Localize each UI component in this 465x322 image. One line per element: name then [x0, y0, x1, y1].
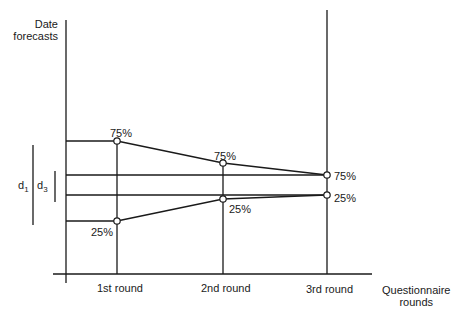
label-25-r2: 25%: [229, 203, 251, 215]
d3-sub: 3: [43, 185, 47, 194]
point-25-r1: [114, 218, 120, 224]
label-75-r3: 75%: [334, 170, 356, 182]
y-axis-label: Date forecasts: [13, 18, 58, 42]
d1-label: d1: [18, 179, 29, 196]
d1-sub: 1: [24, 185, 28, 194]
d3-label: d3: [37, 179, 48, 196]
y-axis-label-line2: forecasts: [13, 30, 58, 42]
label-75-r1: 75%: [110, 127, 132, 139]
point-25-r2: [220, 196, 226, 202]
label-25-r1: 25%: [91, 226, 113, 238]
x-tick-round1: 1st round: [97, 282, 143, 294]
y-axis-label-line1: Date: [13, 18, 58, 30]
point-25-r3: [324, 192, 330, 198]
x-tick-round3: 3rd round: [306, 283, 353, 295]
label-75-r2: 75%: [214, 150, 236, 162]
x-axis-label-line2: rounds: [382, 296, 451, 308]
x-tick-round2: 2nd round: [201, 282, 251, 294]
x-axis-label: Questionnaire rounds: [382, 284, 451, 308]
x-axis-label-line1: Questionnaire: [382, 284, 451, 296]
point-75-r3: [324, 172, 330, 178]
label-25-r3: 25%: [334, 192, 356, 204]
